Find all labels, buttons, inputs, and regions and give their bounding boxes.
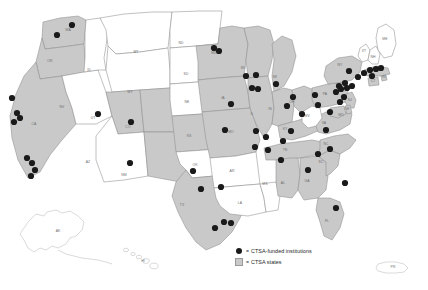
state-label-ak: AK bbox=[56, 229, 61, 233]
legend-label-institutions: CTSA-funded institutions bbox=[251, 248, 312, 254]
institution-dot bbox=[216, 48, 222, 54]
institution-dot bbox=[378, 65, 384, 71]
state-label-fl: FL bbox=[325, 219, 329, 223]
state-label-la: LA bbox=[238, 201, 243, 205]
state-label-az: AZ bbox=[86, 160, 91, 164]
state-label-ky: KY bbox=[283, 127, 288, 131]
institution-dot bbox=[288, 128, 294, 134]
state-label-tn: TN bbox=[283, 148, 288, 152]
state-label-ny: NY bbox=[338, 63, 344, 67]
state-mt bbox=[100, 12, 172, 54]
institution-dot bbox=[305, 167, 311, 173]
institution-dot bbox=[253, 72, 259, 78]
institution-dot bbox=[249, 85, 255, 91]
ctsa-map-figure: WAORCANVIDMTWYUTAZCONMNDSDNEKSOKTXMNIAMO… bbox=[0, 0, 428, 290]
legend-equals-states: = bbox=[246, 259, 249, 265]
institution-dot bbox=[367, 67, 373, 73]
institution-dot bbox=[29, 160, 35, 166]
institution-dot bbox=[228, 220, 234, 226]
institution-dot bbox=[212, 225, 218, 231]
institution-dot bbox=[24, 155, 30, 161]
state-ar bbox=[210, 152, 260, 188]
state-label-il: IL bbox=[250, 112, 253, 116]
state-label-ut: UT bbox=[91, 116, 96, 120]
state-label-wy: WY bbox=[127, 90, 133, 94]
institution-dot bbox=[128, 119, 134, 125]
institution-dot bbox=[255, 86, 261, 92]
state-label-co: CO bbox=[125, 125, 131, 129]
institution-dot bbox=[28, 173, 34, 179]
state-ia bbox=[198, 76, 250, 112]
legend-equals-institutions: = bbox=[246, 248, 249, 254]
institution-dot bbox=[349, 83, 355, 89]
institution-dot bbox=[369, 73, 375, 79]
institution-dot bbox=[252, 144, 258, 150]
state-label-ne: NE bbox=[185, 100, 191, 104]
state-label-mo: MO bbox=[228, 130, 234, 134]
state-label-ga: GA bbox=[304, 179, 310, 183]
state-label-ks: KS bbox=[187, 134, 192, 138]
institution-dot bbox=[323, 127, 329, 133]
state-label-wv: WV bbox=[304, 114, 310, 118]
state-label-pa: PA bbox=[323, 92, 328, 96]
state-label-or: OR bbox=[47, 59, 53, 63]
state-label-wi: WI bbox=[241, 66, 245, 70]
state-label-nj: NJ bbox=[348, 98, 353, 102]
state-label-al: AL bbox=[281, 181, 285, 185]
state-label-ms: MS bbox=[262, 182, 268, 186]
state-in bbox=[272, 88, 294, 126]
state-label-md: MD bbox=[338, 113, 344, 117]
alaska-aleutians-shape bbox=[58, 250, 112, 264]
institution-dot bbox=[355, 74, 361, 80]
state-ga bbox=[298, 156, 328, 200]
legend-square-marker bbox=[233, 258, 245, 266]
institution-dot bbox=[336, 83, 342, 89]
state-label-tx: TX bbox=[180, 203, 185, 207]
state-wa bbox=[42, 16, 86, 49]
institution-dot bbox=[17, 115, 23, 121]
state-wi bbox=[244, 26, 274, 78]
state-label-nh: NH bbox=[370, 55, 376, 59]
state-label-nv: NV bbox=[60, 105, 66, 109]
state-label-va: VA bbox=[322, 121, 327, 125]
legend-label-states: CTSA states bbox=[251, 259, 282, 265]
institution-dot bbox=[263, 134, 269, 140]
institution-dot bbox=[278, 157, 284, 163]
institution-dot bbox=[299, 111, 305, 117]
state-label-pr: PR bbox=[391, 265, 396, 269]
institution-dot bbox=[284, 103, 290, 109]
institution-dot bbox=[222, 127, 228, 133]
state-label-ok: OK bbox=[192, 163, 198, 167]
institution-dot bbox=[218, 184, 224, 190]
state-label-mi: MI bbox=[273, 75, 277, 79]
state-label-nm: NM bbox=[121, 173, 127, 177]
legend-dot-marker bbox=[233, 248, 245, 254]
state-label-nd: ND bbox=[178, 41, 184, 45]
institution-dot bbox=[333, 205, 339, 211]
state-label-vt: VT bbox=[362, 49, 367, 53]
state-label-ct: CT bbox=[371, 79, 376, 83]
institution-dot bbox=[337, 99, 343, 105]
institution-dot bbox=[32, 167, 38, 173]
state-label-ri: RI bbox=[382, 75, 386, 79]
state-label-wa: WA bbox=[65, 28, 71, 32]
legend-row-institutions: = CTSA-funded institutions bbox=[233, 245, 383, 256]
state-label-nc: NC bbox=[323, 142, 329, 146]
state-al bbox=[276, 158, 300, 198]
state-fl bbox=[316, 198, 344, 240]
institution-dot bbox=[69, 22, 75, 28]
institution-dot bbox=[198, 186, 204, 192]
map-legend: = CTSA-funded institutions = CTSA states bbox=[233, 245, 383, 267]
institution-dot bbox=[190, 168, 196, 174]
legend-row-states: = CTSA states bbox=[233, 256, 383, 267]
institution-dot bbox=[9, 95, 15, 101]
state-label-hi: HI bbox=[141, 259, 145, 263]
institution-dot bbox=[342, 80, 348, 86]
state-label-ar: AR bbox=[230, 169, 235, 173]
state-label-id: ID bbox=[87, 68, 91, 72]
institution-dot bbox=[315, 102, 321, 108]
institution-dot bbox=[341, 94, 347, 100]
institution-dot bbox=[54, 32, 60, 38]
institution-dot bbox=[127, 160, 133, 166]
institution-dot bbox=[228, 101, 234, 107]
